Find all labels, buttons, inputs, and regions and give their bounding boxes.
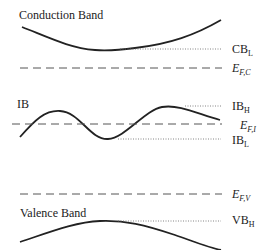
ef-v-label: EF,V (232, 188, 250, 205)
ib-high-label: IBH (232, 100, 250, 117)
conduction-band-label: Conduction Band (19, 9, 103, 21)
ib-low-label: IBL (232, 134, 249, 151)
band-diagram: Conduction Band IB Valence Band CBL EF,C… (0, 0, 269, 250)
intermediate-band-curve (20, 106, 220, 139)
valence-band-label: Valence Band (20, 207, 86, 219)
cb-low-label: CBL (232, 43, 253, 60)
valence-band-curve (20, 221, 221, 250)
ef-c-label: EF,C (232, 62, 251, 79)
conduction-band-curve (22, 20, 221, 50)
vb-high-label: VBH (232, 214, 254, 231)
intermediate-band-label: IB (17, 98, 29, 110)
